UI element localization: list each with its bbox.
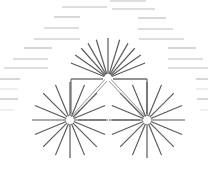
starburst-ray (112, 63, 145, 76)
node-bracket (71, 79, 147, 120)
starburst-ray (109, 40, 120, 74)
starburst-node-top[interactable] (71, 38, 145, 82)
graph-nodes (32, 38, 185, 158)
node-center (105, 75, 112, 82)
starburst-node-bottom-right[interactable] (109, 82, 185, 158)
background-dash-arc (0, 1, 208, 110)
node-center (67, 117, 74, 124)
node-center (144, 117, 151, 124)
diagram-canvas: network-graph (0, 0, 208, 179)
starburst-ray (71, 63, 104, 76)
starburst-node-bottom-left[interactable] (32, 82, 108, 158)
starburst-ray (96, 40, 107, 74)
graph-edges (69, 77, 148, 121)
network-diagram (0, 0, 208, 179)
